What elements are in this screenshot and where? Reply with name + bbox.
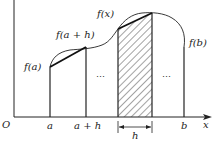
label-f-b: f(b) <box>189 38 207 48</box>
trapezoid-rule-diagram: O x a a + h b h f(a) f(a + h) f(x) f(b) … <box>0 0 216 146</box>
label-b: b <box>181 121 187 131</box>
label-origin: O <box>2 120 10 130</box>
label-a-plus-h: a + h <box>74 121 101 131</box>
label-x-axis: x <box>203 120 209 130</box>
label-f-a-plus-h: f(a + h) <box>56 30 95 40</box>
ellipsis-left: … <box>96 70 105 79</box>
label-a: a <box>47 121 53 131</box>
label-h: h <box>132 131 138 141</box>
ellipsis-right: … <box>162 70 171 79</box>
h-arrow-left-icon <box>119 125 124 129</box>
label-f-a: f(a) <box>24 62 41 72</box>
label-f-x: f(x) <box>97 9 114 19</box>
hatched-trapezoid <box>118 13 152 117</box>
h-arrow-right-icon <box>146 125 151 129</box>
